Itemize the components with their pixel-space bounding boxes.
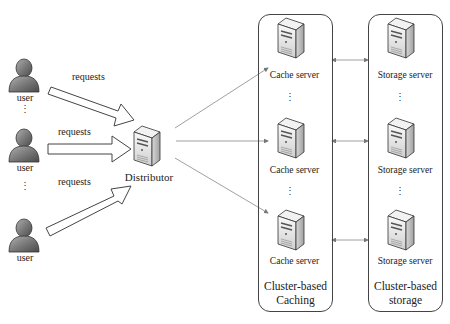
- ellipsis: ⋮: [395, 188, 405, 193]
- cache-server-label: Cache server: [262, 165, 327, 175]
- ellipsis: ⋮: [20, 106, 30, 111]
- storage-server-label: Storage server: [368, 70, 442, 80]
- cache-server-label: Cache server: [262, 256, 327, 266]
- storage-server-label: Storage server: [368, 256, 442, 266]
- storage-cluster-box: [368, 14, 443, 312]
- request-arrow: [48, 136, 131, 162]
- user-icon: [9, 129, 39, 162]
- request-arrow: [48, 87, 134, 126]
- cache-server-label: Cache server: [262, 70, 327, 80]
- ellipsis: ⋮: [395, 94, 405, 99]
- storage-cluster-title-line1: Cluster-based: [368, 279, 443, 293]
- requests-label: requests: [58, 126, 91, 137]
- user-icon: [9, 219, 39, 252]
- caching-cluster-title-line1: Cluster-based: [258, 279, 333, 293]
- ellipsis: ⋮: [285, 94, 295, 99]
- caching-cluster-title: Cluster-based Caching: [258, 279, 333, 307]
- user-label: user: [10, 252, 40, 263]
- requests-label: requests: [72, 71, 105, 82]
- storage-cluster-title: Cluster-based storage: [368, 279, 443, 307]
- distributor-server-icon: [134, 126, 160, 166]
- requests-label: requests: [58, 176, 91, 187]
- storage-cluster-title-line2: storage: [368, 293, 443, 307]
- caching-cluster-box: [258, 14, 333, 312]
- distributor-label: Distributor: [124, 171, 174, 183]
- storage-server-label: Storage server: [368, 165, 442, 175]
- user-icon: [9, 59, 39, 92]
- user-label: user: [10, 162, 40, 173]
- ellipsis: ⋮: [285, 188, 295, 193]
- user-label: user: [10, 92, 40, 103]
- ellipsis: ⋮: [20, 183, 30, 188]
- request-arrow: [46, 186, 131, 236]
- caching-cluster-title-line2: Caching: [258, 293, 333, 307]
